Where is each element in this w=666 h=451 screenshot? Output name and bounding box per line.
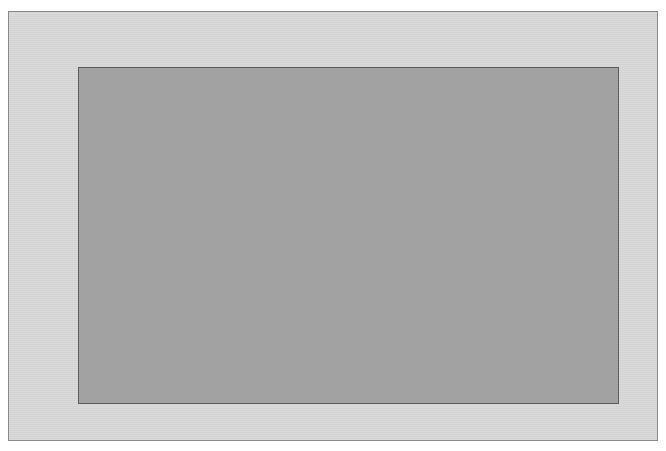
y-axis-ticks — [19, 67, 71, 404]
x-axis-ticks — [78, 411, 619, 429]
plot-area — [78, 67, 619, 404]
series-line-infant — [79, 68, 620, 405]
chart-figure — [8, 11, 658, 441]
